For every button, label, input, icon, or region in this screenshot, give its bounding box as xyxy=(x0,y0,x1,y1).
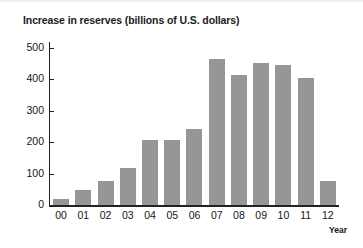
y-tick-label: 200 xyxy=(0,135,44,147)
bar xyxy=(75,190,91,205)
bar xyxy=(298,78,314,205)
x-tick-label: 03 xyxy=(117,209,139,221)
y-tick-label: 400 xyxy=(0,72,44,84)
x-axis-ticks: 00010203040506070809101112 xyxy=(50,209,339,225)
x-tick-label: 06 xyxy=(183,209,205,221)
x-tick-label: 11 xyxy=(295,209,317,221)
bar xyxy=(231,75,247,205)
y-tick-label: 100 xyxy=(0,167,44,179)
bar xyxy=(275,65,291,205)
x-tick-label: 04 xyxy=(139,209,161,221)
bar xyxy=(120,168,136,205)
bar xyxy=(53,199,69,205)
bar xyxy=(164,140,180,205)
bar-series xyxy=(50,42,339,205)
chart-title: Increase in reserves (billions of U.S. d… xyxy=(23,14,239,26)
bar xyxy=(186,129,202,205)
x-tick-label: 01 xyxy=(72,209,94,221)
x-tick-label: 08 xyxy=(228,209,250,221)
y-axis-tick: 500 xyxy=(0,48,56,49)
y-axis-tick: 300 xyxy=(0,111,56,112)
bar xyxy=(98,181,114,205)
bar xyxy=(209,59,225,205)
x-axis-title: Year xyxy=(329,225,347,235)
y-axis-tick: 0 xyxy=(0,205,56,206)
x-tick-label: 12 xyxy=(317,209,339,221)
x-tick-label: 07 xyxy=(206,209,228,221)
chart-figure: Increase in reserves (billions of U.S. d… xyxy=(0,0,363,248)
x-axis-line xyxy=(49,205,339,207)
y-axis-tick: 400 xyxy=(0,79,56,80)
x-tick-label: 00 xyxy=(50,209,72,221)
y-tick-label: 300 xyxy=(0,104,44,116)
x-tick-label: 09 xyxy=(250,209,272,221)
y-tick-label: 0 xyxy=(0,198,44,210)
y-tick-mark xyxy=(49,205,54,206)
y-axis-tick: 200 xyxy=(0,142,56,143)
x-tick-label: 02 xyxy=(94,209,116,221)
bar xyxy=(142,140,158,205)
y-axis-tick: 100 xyxy=(0,174,56,175)
scan-artifact xyxy=(0,0,363,3)
y-tick-label: 500 xyxy=(0,41,44,53)
bar xyxy=(320,181,336,205)
x-tick-label: 10 xyxy=(272,209,294,221)
bar xyxy=(253,63,269,205)
x-tick-label: 05 xyxy=(161,209,183,221)
